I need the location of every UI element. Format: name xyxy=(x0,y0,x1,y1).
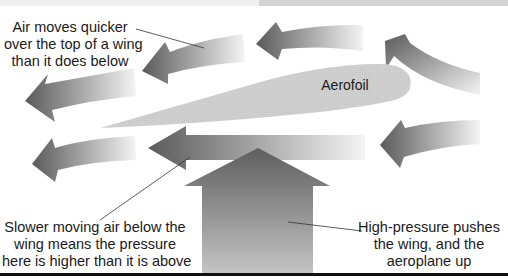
note-line: aeroplane up xyxy=(358,253,500,270)
note-high-pressure: High-pressure pushes the wing, and the a… xyxy=(358,219,500,270)
note-line: High-pressure pushes xyxy=(358,219,500,236)
aerofoil-label: Aerofoil xyxy=(300,77,390,94)
airflow-arrow-lower-right xyxy=(380,120,480,168)
lift-arrow-up xyxy=(184,148,330,273)
note-line: over the top of a wing xyxy=(4,36,136,53)
note-line: the wing, and the xyxy=(358,236,500,253)
note-slower-air-below: Slower moving air below the wing means t… xyxy=(2,219,188,270)
aerofoil-shape xyxy=(100,64,411,128)
leader-line-top xyxy=(136,29,204,48)
note-line: wing means the pressure xyxy=(2,236,188,253)
airflow-arrow-upper-mid-left xyxy=(142,34,245,84)
note-line: Air moves quicker xyxy=(4,19,136,36)
airflow-arrow-upper-far-left xyxy=(25,68,136,122)
airflow-arrow-upper-mid-right xyxy=(256,22,363,60)
bottom-divider xyxy=(0,273,508,276)
note-line: Slower moving air below the xyxy=(2,219,188,236)
note-line: here is higher than it is above xyxy=(2,253,188,270)
leader-line-bottom-left xyxy=(100,157,190,220)
note-air-moves-quicker: Air moves quicker over the top of a wing… xyxy=(4,19,136,70)
note-line: than it does below xyxy=(4,53,136,70)
airflow-arrow-lower-left xyxy=(32,136,136,182)
